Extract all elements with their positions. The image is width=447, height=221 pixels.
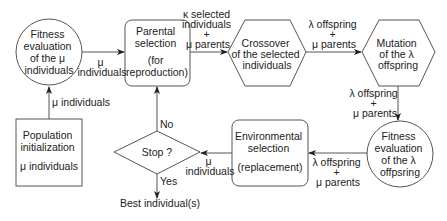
node-label: individuals: [242, 59, 291, 71]
evolutionary-algorithm-flowchart: Fitness evaluation of the μ individuals …: [0, 0, 447, 221]
edge-label-fitness-to-environmental: λ offspring + μ parents: [312, 156, 363, 188]
node-label: (replacement): [238, 161, 303, 173]
node-mutation: Mutation of the λ offspring: [362, 20, 435, 86]
node-label: initialization: [20, 141, 74, 153]
edge-label-no: No: [160, 118, 174, 130]
node-label: of the λ: [381, 154, 416, 166]
edge-label-environmental-to-stop: μ individuals: [185, 155, 234, 177]
node-label: evaluation: [24, 40, 72, 52]
edge-label-mutation-to-fitness: λ offspring + μ parents: [349, 87, 400, 119]
edge-label-crossover-to-mutation: λ offspring + μ parents: [308, 18, 359, 50]
output-best-individuals: Best individual(s): [120, 197, 200, 209]
node-label: Fitness: [31, 28, 65, 40]
svg-text:Fitness evaluation: Fitness evaluation of the λ offpsring: [375, 130, 426, 178]
node-fitness-evaluation-mu: Fitness evaluation of the μ individuals: [16, 19, 82, 85]
svg-text:Population initializatio: Population initialization μ individuals: [20, 129, 78, 172]
edge-label-parental-to-crossover: κ selected individuals + μ parents: [182, 8, 234, 50]
node-label: reproduction): [126, 66, 188, 78]
svg-text:Mutation of the λ: Mutation of the λ offspring: [376, 37, 419, 71]
edge-label-yes: Yes: [160, 175, 177, 187]
node-label: Fitness: [382, 130, 416, 142]
node-label: Environmental: [235, 130, 302, 142]
node-label: Population: [23, 129, 73, 141]
node-label: of the μ: [30, 52, 65, 64]
node-label: individuals: [24, 64, 73, 76]
svg-text:Stop ?: Stop ?: [142, 146, 173, 158]
node-population-initialization: Population initialization μ individuals: [16, 119, 82, 186]
edge-label-fitness-to-parental: μ individuals: [77, 56, 126, 78]
node-environmental-selection: Environmental selection (replacement): [232, 120, 308, 186]
node-label: evaluation: [375, 142, 423, 154]
node-label: Stop ?: [142, 146, 173, 158]
svg-text:Fitness evaluation: Fitness evaluation of the μ individuals: [24, 28, 75, 76]
edge-label-init-to-fitness: μ individuals: [52, 96, 110, 108]
node-label: Parental: [136, 25, 175, 37]
node-fitness-evaluation-lambda: Fitness evaluation of the λ offpsring: [367, 121, 433, 187]
node-label: selection: [135, 37, 177, 49]
node-label: μ individuals: [20, 160, 78, 172]
node-label: offpsring: [380, 166, 420, 178]
node-crossover: Crossover of the selected individuals: [228, 20, 306, 86]
node-label: selection: [248, 142, 290, 154]
node-label: offspring: [378, 59, 418, 71]
node-parental-selection: Parental selection (for reproduction): [125, 20, 190, 86]
node-label: (for: [148, 54, 164, 66]
